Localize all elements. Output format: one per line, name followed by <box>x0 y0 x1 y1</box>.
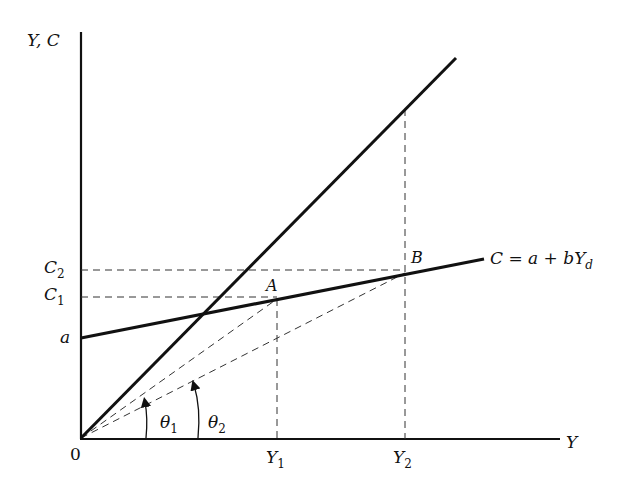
forty-five-degree-line <box>81 58 456 438</box>
c1-label: C1 <box>44 284 65 308</box>
point-b-label: B <box>410 248 423 267</box>
theta2-label: θ2 <box>208 412 226 436</box>
theta1-label: θ1 <box>160 412 178 436</box>
c2-label: C2 <box>44 257 65 281</box>
x-axis-label: Y <box>566 432 579 452</box>
theta2-arc-icon <box>194 385 199 438</box>
origin-label: 0 <box>70 444 81 464</box>
y-axis-label: Y, C <box>27 30 60 50</box>
consumption-function-label: C = a + bYd <box>490 248 593 272</box>
ray-ob <box>81 273 405 438</box>
intercept-a-label: a <box>60 327 70 347</box>
consumption-line <box>81 259 484 338</box>
theta1-arc-icon <box>145 402 147 438</box>
point-a-label: A <box>264 276 278 295</box>
y2-label: Y2 <box>393 447 412 471</box>
consumption-diagram: Y, C Y 0 C2 C1 a Y1 Y2 A B C = a + bYd θ… <box>0 0 639 496</box>
y1-label: Y1 <box>266 447 285 471</box>
